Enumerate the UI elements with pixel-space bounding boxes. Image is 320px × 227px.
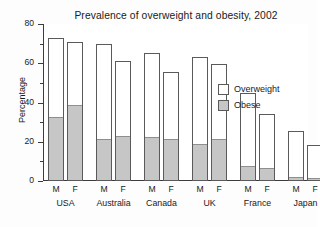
y-tick-label: 80 [4,18,34,28]
chart-title: Prevalence of overweight and obesity, 20… [42,10,310,21]
bars-layer [43,24,309,181]
chart-figure: Prevalence of overweight and obesity, 20… [0,0,317,227]
bar-canada-f [163,72,179,181]
x-label-sex: M [288,184,304,194]
bar-australia-f [115,61,131,181]
bar-obese-segment [97,139,111,180]
x-label-sex: F [67,184,83,194]
bar-japan-m [288,131,304,181]
x-label-sex: F [259,184,275,194]
legend-swatch-overweight [218,84,229,95]
bar-france-f [259,114,275,181]
bar-obese-segment [241,166,255,180]
x-label-sex: M [192,184,208,194]
bar-australia-m [96,44,112,181]
y-tick-label: 20 [4,136,34,146]
y-tick-label: 40 [4,97,34,107]
bar-obese-segment [49,117,63,180]
x-label-country-japan: Japan [266,198,318,208]
x-label-sex: F [211,184,227,194]
bar-obese-segment [116,136,130,180]
x-label-sex: F [115,184,131,194]
bar-obese-segment [193,144,207,180]
legend-label-obese: Obese [234,100,261,110]
x-label-sex: F [307,184,317,194]
bar-obese-segment [212,139,226,180]
bar-obese-segment [164,139,178,180]
bar-obese-segment [260,168,274,180]
bar-usa-m [48,38,64,181]
bar-obese-segment [145,137,159,180]
bar-uk-f [211,64,227,181]
legend-label-overweight: Overweight [234,84,280,94]
x-label-sex: M [240,184,256,194]
y-tick-label: 0 [4,175,34,185]
bar-japan-f [307,145,317,181]
y-tick-major [38,181,43,182]
bar-obese-segment [308,178,317,180]
legend-swatch-obese [218,100,229,111]
x-label-sex: M [144,184,160,194]
bar-canada-m [144,53,160,181]
bar-uk-m [192,57,208,181]
x-label-sex: F [163,184,179,194]
bar-obese-segment [68,105,82,180]
bar-usa-f [67,42,83,181]
bar-obese-segment [289,177,303,180]
x-label-sex: M [48,184,64,194]
x-label-sex: M [96,184,112,194]
y-tick-label: 60 [4,57,34,67]
